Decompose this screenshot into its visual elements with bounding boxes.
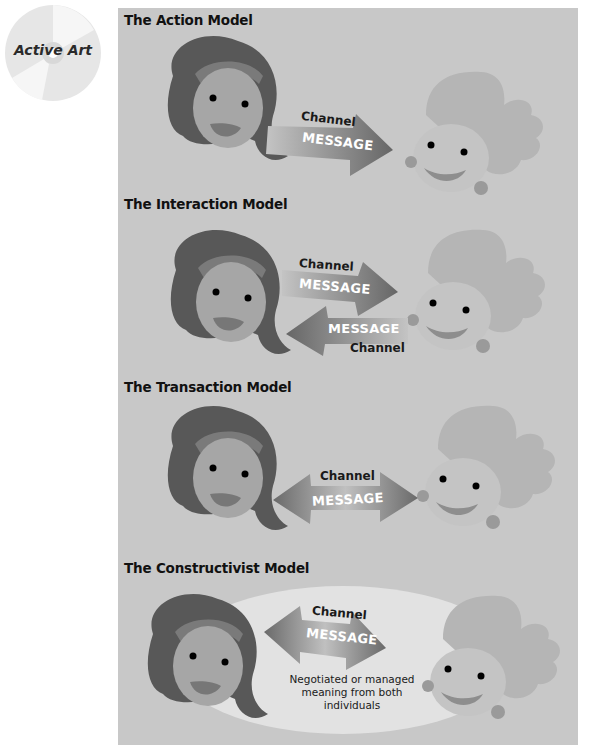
sender-face (171, 230, 291, 354)
section-title-constructivist: The Constructivist Model (124, 560, 309, 576)
section-title-action: The Action Model (124, 12, 253, 28)
channel-label: Channel (320, 469, 375, 483)
receiver-face (417, 406, 555, 529)
channel-label: Channel (350, 341, 405, 355)
active-art-badge: Active Art (2, 2, 104, 104)
shared-meaning-note: Negotiated or managed meaning from both … (282, 673, 422, 712)
badge-label: Active Art (2, 42, 104, 58)
message-label: MESSAGE (328, 321, 400, 336)
receiver-face (405, 72, 543, 195)
receiver-face (407, 230, 545, 353)
models-panel: The Action Model Channel MESSAGE The Int… (118, 8, 578, 745)
section-title-transaction: The Transaction Model (124, 379, 292, 395)
section-title-interaction: The Interaction Model (124, 196, 287, 212)
sender-face (168, 406, 288, 530)
